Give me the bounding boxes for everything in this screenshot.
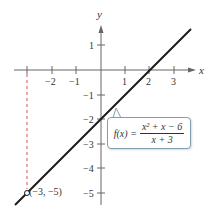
y-axis-label: y [96,8,102,20]
y-tick-label: −2 [83,114,94,125]
x-tick-label: 2 [146,76,151,87]
numerator: x² + x − 6 [140,122,184,134]
x-tick-label: −2 [45,76,56,87]
x-tick-label: 1 [122,76,127,87]
function-callout: f(x) = x² + x − 6 x + 3 [107,117,191,149]
fraction: x² + x − 6 x + 3 [140,122,184,145]
x-tick-label: 3 [171,76,176,87]
x-axis-label: x [198,64,204,76]
x-axis-arrow-icon [188,68,196,73]
x-tick-label: −1 [69,76,80,87]
function-name: f(x) = [114,128,137,139]
y-tick-label: −4 [83,163,94,174]
y-tick-label: 1 [89,40,94,51]
function-graph: x y −2 −1 1 2 3 1 −1 −2 −3 −4 −5 [0,0,215,211]
y-tick-label: −1 [83,90,94,101]
y-tick-label: −5 [83,188,94,199]
y-tick-label: −3 [83,139,94,150]
hole-point-label: (−3, −5) [29,186,62,197]
denominator: x + 3 [151,134,172,145]
y-axis-arrow-icon [99,25,104,33]
